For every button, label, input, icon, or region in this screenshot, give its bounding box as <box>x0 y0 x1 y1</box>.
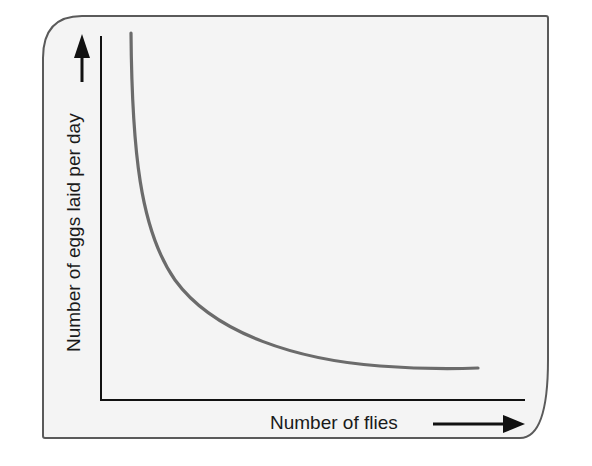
chart-svg <box>0 0 592 466</box>
x-axis-label: Number of flies <box>270 412 398 434</box>
y-axis-label: Number of eggs laid per day <box>62 92 86 352</box>
rounded-frame <box>43 16 548 438</box>
